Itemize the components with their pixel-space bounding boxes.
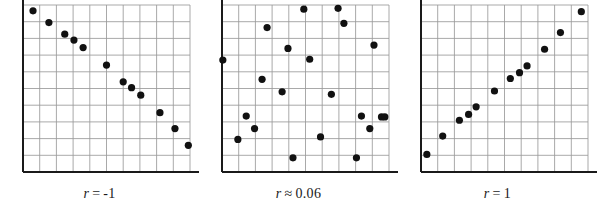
data-point: [61, 31, 68, 38]
axes: [421, 0, 597, 172]
data-point: [465, 111, 472, 118]
panel-caption-3: r=1: [398, 186, 597, 202]
data-point: [70, 36, 77, 43]
data-point: [185, 142, 192, 149]
data-points: [219, 5, 388, 162]
data-point: [516, 69, 523, 76]
caption-operator-1: =: [89, 186, 103, 201]
scatter-panel-r-negative-one: r=-1: [0, 0, 199, 215]
data-point: [366, 125, 373, 132]
data-point: [328, 91, 335, 98]
data-point: [120, 78, 127, 85]
data-point: [137, 92, 144, 99]
data-point: [80, 44, 87, 51]
axes: [222, 0, 398, 172]
data-point: [306, 56, 313, 63]
data-point: [557, 29, 564, 36]
data-point: [381, 113, 388, 120]
scatter-panel-r-positive-one: r=1: [398, 0, 597, 215]
panel-caption-2: r≈0.06: [199, 186, 398, 202]
data-point: [258, 76, 265, 83]
data-point: [423, 151, 430, 158]
panel-caption-1: r=-1: [0, 186, 199, 202]
data-point: [234, 136, 241, 143]
data-point: [29, 7, 36, 14]
data-point: [353, 154, 360, 161]
data-point: [156, 109, 163, 116]
data-point: [251, 125, 258, 132]
data-point: [523, 62, 530, 69]
caption-operator-2: ≈: [282, 186, 296, 201]
data-point: [507, 75, 514, 82]
data-point: [128, 84, 135, 91]
caption-symbol-r-2: r: [276, 186, 282, 201]
data-point: [300, 6, 307, 13]
data-point: [473, 103, 480, 110]
scatter-plot-svg-3: [398, 0, 597, 190]
data-points: [29, 7, 192, 149]
data-point: [219, 57, 226, 64]
data-point: [439, 132, 446, 139]
data-point: [103, 62, 110, 69]
data-point: [370, 41, 377, 48]
scatter-plot-svg-1: [0, 0, 199, 190]
caption-operator-3: =: [490, 186, 504, 201]
grid-lines: [222, 5, 389, 172]
data-point: [171, 125, 178, 132]
data-point: [491, 87, 498, 94]
data-point: [541, 46, 548, 53]
data-point: [284, 45, 291, 52]
caption-value-1: -1: [103, 186, 115, 201]
data-point: [340, 20, 347, 27]
scatter-panel-r-approx-zero: r≈0.06: [199, 0, 398, 215]
data-point: [289, 154, 296, 161]
data-point: [334, 5, 341, 12]
data-point: [358, 112, 365, 119]
data-point: [279, 88, 286, 95]
data-point: [45, 19, 52, 26]
grid-lines: [23, 5, 190, 172]
data-point: [263, 24, 270, 31]
caption-value-3: 1: [504, 186, 511, 201]
caption-value-2: 0.06: [296, 186, 322, 201]
scatter-plot-svg-2: [199, 0, 398, 190]
data-point: [456, 117, 463, 124]
caption-symbol-r-3: r: [484, 186, 490, 201]
data-point: [317, 133, 324, 140]
data-point: [243, 112, 250, 119]
data-point: [578, 8, 585, 15]
correlation-scatterplot-figure: r=-1 r≈0.06 r=1: [0, 0, 598, 215]
